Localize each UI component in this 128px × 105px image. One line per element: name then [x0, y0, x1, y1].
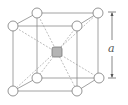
bcc-unit-cell-diagram: a	[0, 0, 128, 105]
lattice-constant-label: a	[108, 42, 115, 55]
corner-atom-back-top-right	[93, 8, 103, 18]
corner-atom-front-top-left	[8, 21, 18, 31]
corner-atom-back-bottom-right	[94, 73, 104, 83]
corner-atom-front-top-right	[72, 21, 82, 31]
corner-atom-front-bottom-right	[72, 86, 82, 96]
corner-atom-back-top-left	[32, 8, 42, 18]
center-atom	[52, 47, 62, 57]
corner-atom-back-bottom-left	[32, 73, 42, 83]
back-face-edges	[37, 13, 98, 78]
corner-atom-front-bottom-left	[8, 86, 18, 96]
